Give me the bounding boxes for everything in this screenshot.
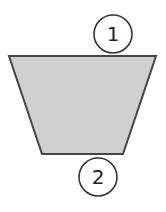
trapezoid-diagram: 1 2 bbox=[0, 0, 166, 212]
trapezoid-shape bbox=[9, 56, 156, 154]
label-2-text: 2 bbox=[92, 165, 105, 189]
label-1-text: 1 bbox=[107, 22, 120, 46]
label-1-marker: 1 bbox=[94, 15, 132, 53]
label-2-marker: 2 bbox=[79, 158, 117, 196]
